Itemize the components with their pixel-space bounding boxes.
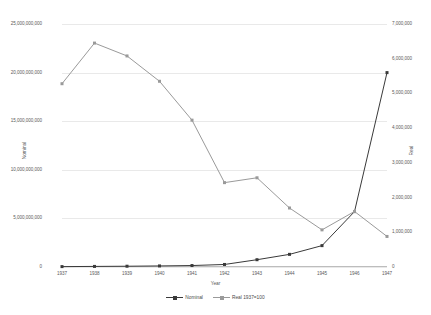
data-point-marker [223, 181, 226, 184]
x-axis-tick-label: 1937 [47, 271, 77, 276]
data-point-marker [353, 210, 356, 213]
series-layer [62, 24, 387, 267]
x-axis-tick-label: 1946 [340, 271, 370, 276]
x-axis-tick-label: 1940 [145, 271, 175, 276]
data-point-marker [191, 264, 194, 267]
legend-item[interactable]: Real 1937=100 [213, 295, 265, 300]
plot-area [62, 24, 387, 267]
data-point-marker [126, 54, 129, 57]
y-axis-title-left: Nominal [22, 142, 27, 160]
right-axis-tick-label: 0 [392, 264, 395, 269]
right-axis-tick-label: 2,000,000 [392, 195, 412, 200]
x-axis-tick-label: 1947 [372, 271, 402, 276]
data-point-marker [256, 176, 259, 179]
data-point-marker [256, 258, 259, 261]
legend-swatch-icon [213, 295, 230, 300]
right-axis-tick-label: 3,000,000 [392, 160, 412, 165]
x-axis-tick-label: 1944 [275, 271, 305, 276]
series-nominal [61, 71, 389, 268]
right-axis-tick-label: 6,000,000 [392, 56, 412, 61]
left-axis-tick-label: 25,000,000,000 [11, 21, 42, 26]
right-axis-tick-label: 1,000,000 [392, 229, 412, 234]
chart-legend: NominalReal 1937=100 [0, 295, 431, 300]
series-line [62, 43, 387, 236]
legend-item-label: Nominal [185, 295, 203, 300]
legend-item-label: Real 1937=100 [232, 295, 265, 300]
right-axis-tick-label: 4,000,000 [392, 125, 412, 130]
data-point-marker [191, 119, 194, 122]
x-axis-tick-label: 1945 [307, 271, 337, 276]
data-point-marker [126, 265, 129, 268]
left-axis-tick-label: 15,000,000,000 [11, 118, 42, 123]
series-line [62, 73, 387, 267]
data-point-marker [386, 235, 389, 238]
data-point-marker [93, 265, 96, 268]
left-axis-tick-label: 20,000,000,000 [11, 70, 42, 75]
data-point-marker [61, 82, 64, 85]
right-axis-tick-label: 7,000,000 [392, 21, 412, 26]
left-axis-tick-label: 5,000,000,000 [13, 215, 42, 220]
chart-container: 05,000,000,00010,000,000,00015,000,000,0… [0, 0, 431, 315]
data-point-marker [158, 80, 161, 83]
x-axis-tick-label: 1938 [80, 271, 110, 276]
data-point-marker [223, 263, 226, 266]
data-point-marker [158, 264, 161, 267]
x-axis-tick-label: 1939 [112, 271, 142, 276]
gridline [62, 267, 387, 268]
data-point-marker [321, 244, 324, 247]
data-point-marker [288, 253, 291, 256]
data-point-marker [321, 228, 324, 231]
right-axis-tick-label: 5,000,000 [392, 90, 412, 95]
data-point-marker [288, 206, 291, 209]
series-real-1937-100 [61, 42, 389, 238]
data-point-marker [93, 42, 96, 45]
y-axis-title-right: Real [409, 146, 414, 156]
x-axis-tick-label: 1943 [242, 271, 272, 276]
legend-swatch-icon [166, 295, 183, 300]
x-axis-tick-label: 1942 [210, 271, 240, 276]
x-axis-tick-label: 1941 [177, 271, 207, 276]
data-point-marker [386, 71, 389, 74]
left-axis-tick-label: 0 [39, 264, 42, 269]
left-axis-tick-label: 10,000,000,000 [11, 167, 42, 172]
data-point-marker [61, 265, 64, 268]
legend-item[interactable]: Nominal [166, 295, 203, 300]
x-axis-title: Year [0, 281, 431, 286]
